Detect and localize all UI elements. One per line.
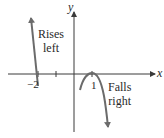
annotation-falls-right-line1: Falls bbox=[108, 80, 131, 94]
graph-canvas bbox=[0, 0, 164, 138]
annotation-falls-right-line2: right bbox=[108, 94, 131, 108]
tick-label-neg-two: −2 bbox=[27, 78, 39, 91]
curve-left-branch bbox=[31, 18, 38, 86]
y-axis-label: y bbox=[68, 1, 73, 14]
annotation-rises-left-line1: Rises bbox=[38, 27, 64, 41]
polynomial-end-behavior-graph: y x −2 1 Rises left Falls right bbox=[0, 0, 164, 138]
annotation-rises-left-line2: left bbox=[38, 41, 64, 55]
tick-label-one: 1 bbox=[91, 79, 97, 92]
x-axis-label: x bbox=[157, 67, 162, 80]
annotation-falls-right: Falls right bbox=[108, 80, 131, 108]
annotation-rises-left: Rises left bbox=[38, 27, 64, 55]
